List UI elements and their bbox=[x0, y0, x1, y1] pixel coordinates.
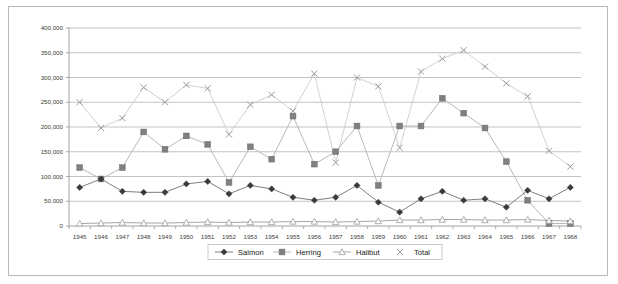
data-point-herring bbox=[119, 165, 125, 171]
data-point-herring bbox=[247, 144, 253, 150]
series-line-total bbox=[80, 50, 571, 166]
legend-label-total: Total bbox=[414, 248, 430, 257]
y-axis-tick-label: 0 bbox=[60, 222, 64, 229]
data-point-total bbox=[141, 84, 147, 90]
x-axis-tick-label: 1968 bbox=[563, 233, 577, 240]
data-point-salmon bbox=[290, 194, 296, 200]
gridlines-group bbox=[69, 28, 581, 201]
data-point-salmon bbox=[247, 182, 253, 188]
series-lines-group bbox=[80, 50, 571, 223]
x-tick-marks-group bbox=[69, 226, 581, 229]
data-point-salmon bbox=[439, 188, 445, 194]
data-point-salmon bbox=[141, 189, 147, 195]
x-axis-tick-label: 1961 bbox=[414, 233, 428, 240]
x-axis-tick-label: 1955 bbox=[286, 233, 300, 240]
data-point-total bbox=[482, 64, 488, 70]
legend-label-halibut: Halibut bbox=[356, 248, 381, 257]
data-point-salmon bbox=[119, 188, 125, 194]
x-axis-tick-label: 1951 bbox=[201, 233, 215, 240]
data-point-total bbox=[269, 92, 275, 98]
data-point-herring bbox=[269, 156, 275, 162]
data-point-herring bbox=[183, 133, 189, 139]
data-point-herring bbox=[354, 123, 360, 129]
data-point-herring bbox=[418, 123, 424, 129]
x-axis-tick-label: 1959 bbox=[371, 233, 385, 240]
x-axis-tick-label: 1965 bbox=[499, 233, 513, 240]
data-point-herring bbox=[461, 110, 467, 116]
data-point-herring bbox=[290, 113, 296, 119]
x-axis-tick-label: 1952 bbox=[222, 233, 236, 240]
data-point-total bbox=[397, 145, 403, 151]
legend-marker-herring bbox=[279, 249, 285, 255]
x-axis-tick-label: 1956 bbox=[307, 233, 321, 240]
data-point-herring bbox=[205, 141, 211, 147]
chart-outer-frame: 050,000100,000150,000200,000250,000300,0… bbox=[8, 6, 608, 276]
x-axis-tick-label: 1958 bbox=[350, 233, 364, 240]
data-point-herring bbox=[525, 197, 531, 203]
data-point-salmon bbox=[162, 189, 168, 195]
data-point-salmon bbox=[461, 197, 467, 203]
x-axis-tick-label: 1947 bbox=[115, 233, 129, 240]
data-point-herring bbox=[77, 165, 83, 171]
x-axis-tick-label: 1963 bbox=[457, 233, 471, 240]
data-point-herring bbox=[141, 129, 147, 135]
x-axis-tick-label: 1948 bbox=[137, 233, 151, 240]
data-point-herring bbox=[311, 161, 317, 167]
x-axis-tick-label: 1960 bbox=[393, 233, 407, 240]
data-point-salmon bbox=[226, 191, 232, 197]
data-point-salmon bbox=[567, 184, 573, 190]
data-point-total bbox=[567, 164, 573, 170]
legend-label-herring: Herring bbox=[296, 248, 321, 257]
x-axis-tick-label: 1945 bbox=[73, 233, 87, 240]
x-axis-tick-label: 1964 bbox=[478, 233, 492, 240]
chart-legend: SalmonHerringHalibutTotal bbox=[208, 245, 442, 260]
series-markers-group bbox=[76, 47, 573, 226]
data-point-salmon bbox=[205, 178, 211, 184]
data-point-herring bbox=[226, 180, 232, 186]
x-axis-tick-label: 1949 bbox=[158, 233, 172, 240]
x-axis-tick-label: 1950 bbox=[179, 233, 193, 240]
x-axis-tick-label: 1957 bbox=[329, 233, 343, 240]
data-point-total bbox=[311, 70, 317, 76]
data-point-salmon bbox=[311, 197, 317, 203]
data-point-salmon bbox=[397, 209, 403, 215]
y-axis-tick-label: 150,000 bbox=[41, 148, 64, 155]
y-axis-labels-group: 050,000100,000150,000200,000250,000300,0… bbox=[41, 24, 64, 229]
chart-plot-area: 050,000100,000150,000200,000250,000300,0… bbox=[9, 7, 609, 277]
legend-label-salmon: Salmon bbox=[238, 248, 264, 257]
data-point-salmon bbox=[183, 181, 189, 187]
x-axis-tick-label: 1954 bbox=[265, 233, 279, 240]
y-axis-tick-label: 250,000 bbox=[41, 98, 64, 105]
x-axis-tick-label: 1953 bbox=[243, 233, 257, 240]
x-axis-tick-label: 1946 bbox=[94, 233, 108, 240]
data-point-salmon bbox=[77, 184, 83, 190]
data-point-total bbox=[119, 115, 125, 121]
data-point-salmon bbox=[269, 186, 275, 192]
y-tick-marks-group bbox=[66, 28, 69, 226]
data-point-total bbox=[503, 80, 509, 86]
line-chart-svg: 050,000100,000150,000200,000250,000300,0… bbox=[9, 7, 609, 277]
data-point-herring bbox=[439, 95, 445, 101]
data-point-total bbox=[525, 93, 531, 99]
data-point-total bbox=[333, 160, 339, 166]
y-axis-tick-label: 300,000 bbox=[41, 74, 64, 81]
x-axis-tick-label: 1967 bbox=[542, 233, 556, 240]
data-point-herring bbox=[482, 125, 488, 131]
data-point-herring bbox=[375, 183, 381, 189]
data-point-total bbox=[375, 83, 381, 89]
data-point-total bbox=[226, 131, 232, 137]
data-point-total bbox=[98, 125, 104, 131]
y-axis-tick-label: 400,000 bbox=[41, 24, 64, 31]
data-point-herring bbox=[503, 159, 509, 165]
x-axis-tick-label: 1962 bbox=[435, 233, 449, 240]
data-point-herring bbox=[162, 146, 168, 152]
data-point-herring bbox=[333, 149, 339, 155]
x-axis-labels-group: 1945194619471948194919501951195219531954… bbox=[73, 233, 578, 240]
y-axis-tick-label: 50,000 bbox=[44, 197, 63, 204]
data-point-herring bbox=[397, 123, 403, 129]
series-line-halibut bbox=[80, 220, 571, 224]
data-point-total bbox=[546, 148, 552, 154]
y-axis-tick-label: 200,000 bbox=[41, 123, 64, 130]
x-axis-tick-label: 1966 bbox=[521, 233, 535, 240]
data-point-salmon bbox=[333, 194, 339, 200]
